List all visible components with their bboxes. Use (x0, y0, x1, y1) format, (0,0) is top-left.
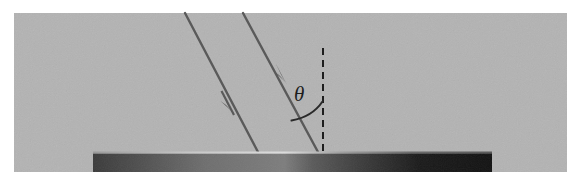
optics-figure: θ (0, 0, 582, 179)
reflective-surface (93, 152, 492, 173)
medium-region (14, 13, 567, 172)
theta-label: θ (294, 82, 304, 106)
figure-canvas: θ (0, 0, 582, 179)
